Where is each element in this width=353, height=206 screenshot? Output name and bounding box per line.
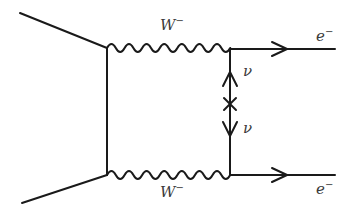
label-w-top: W−: [160, 16, 184, 33]
label-nu-bottom: ν: [243, 121, 252, 136]
label-e-bottom: e−: [316, 180, 333, 197]
label-e-bottom-sup: −: [325, 179, 333, 190]
w-boson-bottom: [107, 171, 230, 179]
label-w-bottom-base: W: [160, 183, 175, 201]
label-e-top: e−: [316, 27, 333, 44]
label-e-top-base: e: [316, 27, 325, 45]
incoming-line-bottom: [22, 175, 107, 203]
label-w-top-base: W: [160, 16, 175, 34]
feynman-diagram: W− W− e− e− ν ν: [0, 0, 353, 206]
label-e-top-sup: −: [325, 26, 333, 37]
label-e-bottom-base: e: [316, 180, 325, 198]
label-nu-top-base: ν: [243, 62, 252, 80]
label-nu-bottom-base: ν: [243, 119, 252, 137]
w-boson-top: [107, 44, 230, 52]
label-w-top-sup: −: [175, 15, 183, 26]
incoming-line-top: [20, 13, 107, 48]
label-w-bottom: W−: [160, 183, 184, 200]
label-nu-top: ν: [243, 64, 252, 79]
label-w-bottom-sup: −: [175, 182, 183, 193]
